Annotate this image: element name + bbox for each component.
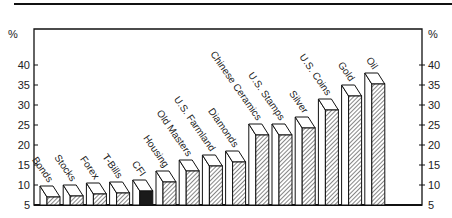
bar: [365, 73, 385, 205]
bar: [226, 151, 246, 205]
y-tick-right: 25: [428, 119, 440, 131]
category-label: CFI: [130, 159, 148, 179]
y-tick-left: 20: [18, 139, 30, 151]
category-label: Silver: [287, 88, 311, 115]
bar: [156, 171, 176, 205]
bar: [318, 99, 338, 205]
bar: [86, 183, 106, 205]
y-tick-right: 30: [428, 99, 440, 111]
bar: [133, 180, 153, 205]
y-axis-label-right: %: [428, 28, 438, 40]
category-label: Gold: [336, 60, 357, 84]
y-tick-left: 35: [18, 79, 30, 91]
category-label: Housing: [141, 133, 171, 169]
y-axis-label-left: %: [8, 28, 18, 40]
y-tick-right: 15: [428, 159, 440, 171]
category-label: U.S. Coins: [297, 52, 333, 97]
y-tick-right: 40: [428, 59, 440, 71]
y-tick-left: 25: [18, 119, 30, 131]
category-label: Forex: [78, 154, 102, 181]
y-tick-right: 5: [428, 199, 434, 211]
bar: [342, 85, 362, 205]
category-label: Stocks: [52, 152, 78, 183]
y-tick-left: 30: [18, 99, 30, 111]
category-label: T-Bills: [100, 152, 125, 181]
y-tick-left: 15: [18, 159, 30, 171]
y-tick-left: 10: [18, 179, 30, 191]
bar: [40, 186, 60, 205]
y-tick-right: 10: [428, 179, 440, 191]
bar: [272, 124, 292, 205]
category-label: Oil: [364, 55, 380, 71]
y-tick-right: 35: [428, 79, 440, 91]
bar: [63, 185, 83, 205]
y-tick-right: 20: [428, 139, 440, 151]
bar: [110, 182, 130, 205]
y-tick-left: 40: [18, 59, 30, 71]
bar: [249, 124, 269, 205]
bar: [295, 117, 315, 205]
bar: [179, 160, 199, 205]
chart: %%551010151520202525303035354040 BondsSt…: [0, 0, 452, 218]
y-tick-left: 5: [24, 199, 30, 211]
bar: [202, 155, 222, 205]
